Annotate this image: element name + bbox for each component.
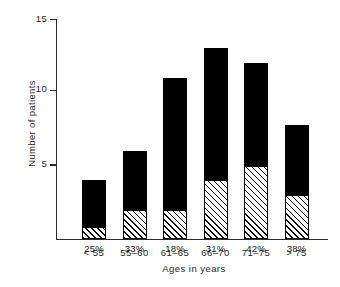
- y-tick-15: 15: [50, 19, 56, 20]
- x-category-label-5: > 75: [286, 247, 306, 258]
- y-tick-label-15: 15: [36, 13, 47, 24]
- x-category-label-3: 66–70: [201, 247, 229, 258]
- y-tick-label-5: 5: [41, 158, 47, 169]
- x-category-label-0: < 55: [84, 247, 104, 258]
- x-axis-title: Ages in years: [56, 263, 332, 274]
- y-tick-5: 5: [50, 164, 56, 165]
- bar-group-2[interactable]: 18%: [163, 78, 187, 239]
- y-axis-title: Number of patients: [26, 49, 37, 199]
- x-category-label-2: 61–65: [161, 247, 189, 258]
- x-category-label-1: 55–60: [120, 247, 148, 258]
- y-tick-label-10: 10: [36, 83, 47, 94]
- bar-hatched-segment: [163, 210, 187, 239]
- bar-group-5[interactable]: 38%: [285, 125, 309, 239]
- bar-hatched-segment: [123, 210, 147, 239]
- plot-area: 15 10 5 25% 33% 18% 31%: [56, 14, 332, 240]
- bar-group-3[interactable]: 31%: [204, 48, 228, 239]
- bar-hatched-segment: [285, 195, 309, 239]
- x-category-label-4: 71–75: [242, 247, 270, 258]
- bar-group-0[interactable]: 25%: [82, 180, 106, 239]
- y-tick-10: 10: [50, 90, 56, 91]
- bar-hatched-segment: [204, 180, 228, 239]
- x-axis-line: [56, 239, 328, 240]
- bar-hatched-segment: [82, 227, 106, 239]
- bar-group-1[interactable]: 33%: [123, 151, 147, 239]
- bar-chart: Number of patients 15 10 5 25% 33% 18%: [0, 0, 340, 287]
- y-axis-line: [56, 19, 57, 240]
- bar-group-4[interactable]: 42%: [244, 63, 268, 239]
- bar-hatched-segment: [244, 166, 268, 239]
